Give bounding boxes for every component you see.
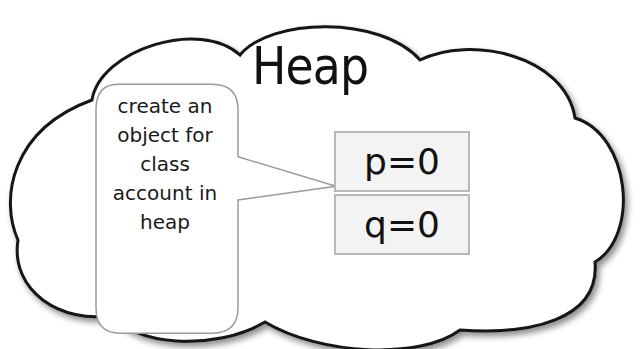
field-p-label: p=0 xyxy=(364,141,440,182)
field-q-box: q=0 xyxy=(334,194,470,255)
callout-line: create an xyxy=(100,92,230,121)
callout-line: account in xyxy=(100,179,230,208)
callout-line: class xyxy=(100,150,230,179)
heap-title: Heap xyxy=(252,36,368,96)
callout-line: object for xyxy=(100,121,230,150)
field-p-box: p=0 xyxy=(334,131,470,192)
field-q-label: q=0 xyxy=(364,204,440,245)
callout-text: create an object for class account in he… xyxy=(100,92,230,237)
callout-line: heap xyxy=(100,208,230,237)
